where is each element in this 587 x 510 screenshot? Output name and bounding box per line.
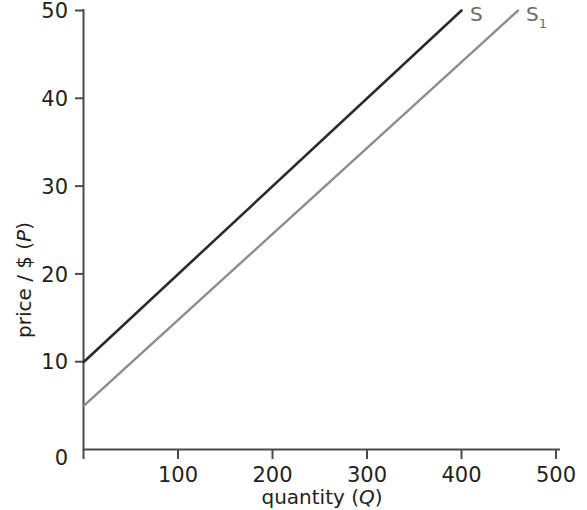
x-tick-label-300: 300 xyxy=(347,463,387,487)
series-label-s1-base: S xyxy=(526,2,539,26)
y-axis-title-plain: price / $ ( xyxy=(12,242,36,338)
supply-curve-chart: D 50 40 30 20 10 xyxy=(0,0,587,510)
x-tick-label-500: 500 xyxy=(536,463,576,487)
x-axis-tick-labels: 100 200 300 400 500 xyxy=(158,463,576,487)
y-tick-label-40: 40 xyxy=(41,87,68,111)
y-tick-label-20: 20 xyxy=(41,263,68,287)
y-tick-label-50: 50 xyxy=(41,0,68,23)
chart-canvas: 50 40 30 20 10 0 100 200 300 400 500 pri… xyxy=(0,0,587,510)
y-tick-label-30: 30 xyxy=(41,175,68,199)
series-label-s1-subscript: 1 xyxy=(539,16,547,31)
x-axis-title-close: ) xyxy=(375,485,383,509)
y-axis-title-symbol: P xyxy=(12,229,36,242)
x-tick-label-400: 400 xyxy=(441,463,481,487)
series-label-s1: S1 xyxy=(526,2,547,31)
supply-curve-s1-line xyxy=(84,11,518,406)
x-axis-title-symbol: Q xyxy=(359,485,375,509)
y-tick-label-0: 0 xyxy=(55,446,68,470)
x-axis-title-plain: quantity ( xyxy=(261,485,359,509)
y-axis-title: price / $ (P) xyxy=(12,222,36,338)
y-axis-tick-labels: 50 40 30 20 10 0 xyxy=(41,0,68,470)
corner-glyph-fragment: D xyxy=(0,0,11,14)
x-axis-title: quantity (Q) xyxy=(261,485,382,509)
y-axis-title-close: ) xyxy=(12,222,36,230)
x-tick-label-200: 200 xyxy=(252,463,292,487)
supply-curve-s-line xyxy=(84,11,462,362)
series-label-s: S xyxy=(470,2,483,26)
y-tick-label-10: 10 xyxy=(41,350,68,374)
x-tick-label-100: 100 xyxy=(158,463,198,487)
